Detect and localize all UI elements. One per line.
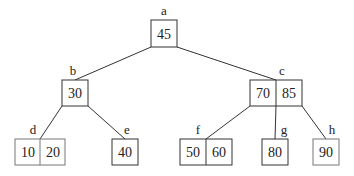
node-label: g	[281, 122, 288, 137]
node-key: 90	[319, 145, 333, 160]
node-label: h	[329, 122, 336, 137]
node-label: a	[161, 3, 167, 18]
node-a: a 45	[151, 3, 177, 47]
node-d: d 10 20	[15, 122, 65, 165]
node-label: f	[196, 122, 201, 137]
b-tree-diagram: a 45 b 30 c 70 85 d 10 20 e 40 f 50 60	[0, 0, 354, 176]
node-key: 70	[256, 86, 270, 101]
node-key: 40	[118, 145, 132, 160]
node-label: b	[70, 63, 77, 78]
node-b: b 30	[62, 63, 88, 106]
edge-c-h	[302, 106, 326, 139]
edge-a-c	[177, 47, 276, 80]
node-key: 20	[46, 145, 60, 160]
node-key: 30	[68, 86, 82, 101]
edge-c-f	[206, 106, 250, 139]
node-label: e	[124, 122, 130, 137]
node-key: 50	[186, 145, 200, 160]
node-key: 60	[212, 145, 226, 160]
node-f: f 50 60	[180, 122, 232, 165]
node-h: h 90	[313, 122, 339, 165]
node-c: c 70 85	[250, 63, 302, 106]
edge-a-b	[75, 47, 151, 80]
node-key: 10	[21, 145, 35, 160]
node-key: 85	[282, 86, 296, 101]
node-key: 80	[268, 145, 282, 160]
node-key: 45	[157, 27, 171, 42]
node-e: e 40	[112, 122, 138, 165]
node-label: d	[30, 122, 37, 137]
node-label: c	[279, 63, 285, 78]
edge-c-g	[275, 106, 276, 139]
edge-b-e	[88, 106, 125, 139]
edge-b-d	[40, 106, 62, 139]
